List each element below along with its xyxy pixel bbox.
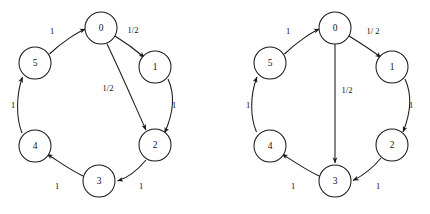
edge-0-to-1 [115,36,145,58]
node-5-label: 5 [33,58,38,68]
node-4-right-label: 4 [268,141,273,151]
edge-label-5-0: 1 [50,26,54,36]
edge-label-0-1: 1/2 [128,25,139,35]
edge-label-4-5-right: 1 [246,100,250,110]
edge-label-2-3-right: 1 [376,181,380,191]
node-4-label: 4 [33,141,38,151]
node-2-label: 2 [153,140,158,150]
node-0-label: 0 [99,23,104,33]
edge-label-2-3: 1 [139,181,143,191]
right-graph: 0 1 2 3 4 5 1 1/ 2 [246,12,413,197]
edge-label-5-0-right: 1 [286,26,290,36]
node-1-right[interactable]: 1 [376,51,408,83]
node-3-right[interactable]: 3 [319,165,351,197]
edge-label-0-3-right: 1/2 [342,85,353,95]
edge-2-to-3-right [353,158,381,181]
node-2[interactable]: 2 [139,129,171,161]
edge-label-1-2: 1 [172,100,176,110]
node-0[interactable]: 0 [85,12,117,44]
edge-4-to-5-right [252,77,257,132]
node-5-right-label: 5 [268,58,273,68]
edge-5-to-0 [50,29,86,54]
edge-label-1-2-right: 1 [409,100,413,110]
node-1-label: 1 [153,62,158,72]
edge-label-3-4: 1 [55,181,59,191]
graph-diagram-svg: 0 1 2 3 4 5 1 1/2 [0,0,430,214]
node-4-right[interactable]: 4 [254,130,286,162]
edge-0-to-1-right [349,36,381,58]
edge-label-0-2: 1/2 [103,83,114,93]
edge-label-3-4-right: 1 [291,181,295,191]
node-1-right-label: 1 [390,62,395,72]
node-3-right-label: 3 [333,176,338,186]
edge-2-to-3 [118,160,147,181]
node-2-right[interactable]: 2 [376,129,408,161]
edge-4-to-5 [18,77,23,133]
node-5[interactable]: 5 [19,47,51,79]
node-0-right[interactable]: 0 [319,12,351,44]
node-5-right[interactable]: 5 [254,47,286,79]
edge-label-0-1-right: 1/ 2 [367,26,380,36]
node-1[interactable]: 1 [139,51,171,83]
node-3[interactable]: 3 [83,165,115,197]
node-2-right-label: 2 [390,140,395,150]
edge-3-to-4-right [282,154,319,176]
edge-3-to-4 [47,154,83,176]
node-0-right-label: 0 [333,23,338,33]
node-3-label: 3 [97,176,102,186]
node-4[interactable]: 4 [19,130,51,162]
left-graph: 0 1 2 3 4 5 1 1/2 [11,12,176,197]
edge-label-4-5: 1 [11,100,15,110]
figure-container: 0 1 2 3 4 5 1 1/2 [0,0,430,214]
